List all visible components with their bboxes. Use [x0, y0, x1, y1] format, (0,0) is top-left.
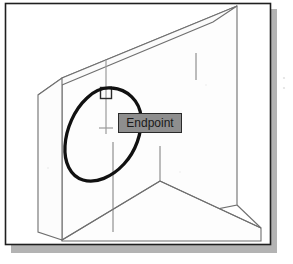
figure-root: Endpoint — [0, 0, 293, 264]
osnap-tooltip-label: Endpoint — [126, 117, 173, 129]
osnap-tooltip: Endpoint — [118, 113, 182, 133]
wall-left-end-face — [38, 78, 62, 240]
